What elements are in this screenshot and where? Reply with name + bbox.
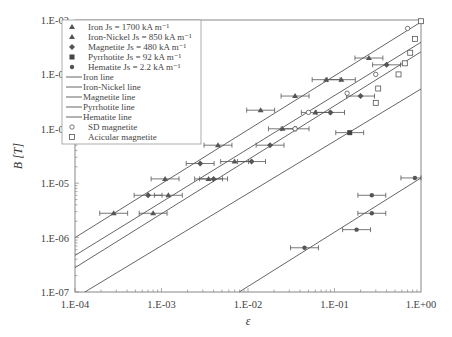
square-marker — [70, 55, 75, 60]
x-tick-label: 1.E-03 — [147, 299, 175, 310]
triangle-marker — [165, 192, 171, 197]
circle-marker — [413, 176, 417, 180]
y-tick-label: 1.E-07 — [41, 287, 69, 298]
open-square-marker — [412, 36, 417, 41]
open-square-marker — [396, 72, 401, 77]
triangle-marker — [292, 93, 298, 98]
open-circle-marker — [306, 110, 310, 114]
diamond-marker — [211, 176, 217, 182]
legend-label: SD magnetite — [88, 122, 137, 132]
triangle-marker — [258, 107, 264, 112]
legend-label: Hematite line — [83, 112, 132, 122]
y-tick-label: 1.E-06 — [41, 233, 69, 244]
x-tick-label: 1.E-02 — [234, 299, 262, 310]
fit-line — [239, 178, 421, 292]
triangle-marker — [215, 142, 221, 147]
y-axis-title: B [T] — [11, 142, 25, 169]
legend-label: Pyrrhotite Js = 92 kA m⁻¹ — [88, 52, 182, 62]
triangle-marker — [111, 210, 117, 215]
legend-label: Magnetite Js = 480 kA m⁻¹ — [88, 42, 187, 52]
square-marker — [347, 130, 352, 135]
x-tick-label: 1.E-01 — [320, 299, 348, 310]
diamond-marker — [384, 62, 390, 68]
x-tick-label: 1.E-04 — [61, 299, 90, 310]
diamond-marker — [358, 93, 364, 99]
legend-label: Magnetite line — [83, 92, 135, 102]
open-circle-marker — [293, 127, 297, 131]
open-square-marker — [70, 135, 75, 140]
circle-marker — [354, 227, 358, 231]
legend-label: Iron-Nickel line — [83, 82, 141, 92]
x-tick-label: 1.E+00 — [406, 299, 437, 310]
triangle-marker — [232, 159, 238, 164]
open-square-marker — [373, 100, 378, 105]
legend-label: Pyrrhotite line — [83, 102, 135, 112]
triangle-marker — [323, 77, 329, 82]
open-circle-marker — [70, 125, 74, 129]
circle-marker — [70, 65, 74, 69]
circle-marker — [370, 193, 374, 197]
circle-marker — [370, 211, 374, 215]
open-square-marker — [376, 86, 381, 91]
chart-root: 1.E-041.E-031.E-021.E-011.E+001.E-021.E-… — [0, 0, 452, 337]
legend-label: Iron Js = 1700 kA m⁻¹ — [88, 22, 170, 32]
open-square-marker — [408, 50, 413, 55]
open-circle-marker — [405, 26, 409, 30]
legend-label: Iron-Nickel Js = 850 kA m⁻¹ — [88, 32, 192, 42]
y-tick-label: 1.E-05 — [41, 178, 69, 189]
diamond-marker — [328, 109, 334, 115]
diamond-marker — [249, 159, 255, 165]
triangle-marker — [206, 176, 212, 181]
circle-marker — [302, 246, 306, 250]
legend-label: Hematite Js = 2.2 kA m⁻¹ — [88, 62, 181, 72]
triangle-marker — [312, 109, 318, 114]
legend-label: Iron line — [83, 72, 114, 82]
open-circle-marker — [374, 72, 378, 76]
open-square-marker — [419, 19, 424, 24]
x-axis-title: ε — [246, 314, 251, 328]
triangle-marker — [338, 77, 344, 82]
open-circle-marker — [345, 91, 349, 95]
triangle-marker — [150, 210, 156, 215]
legend-label: Acicular magnetite — [88, 132, 157, 142]
open-square-marker — [402, 61, 407, 66]
legend: Iron Js = 1700 kA m⁻¹Iron-Nickel Js = 85… — [62, 20, 201, 144]
triangle-marker — [162, 176, 168, 181]
